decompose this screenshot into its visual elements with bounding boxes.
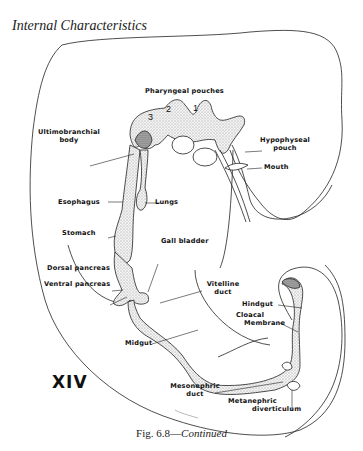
label-ventral-pancreas: Ventral pancreas [44,281,110,289]
label-line: duct [205,289,241,297]
label-mesonephric-duct: Mesonephric duct [170,383,220,398]
figure-caption: Fig. 6.8—Continued [0,427,363,439]
label-esophagus: Esophagus [58,199,100,207]
label-stomach: Stomach [62,230,96,238]
label-hypophyseal-pouch: Hypophyseal pouch [255,137,315,152]
label-line: pouch [255,145,315,153]
label-cloacal-membrane: Cloacal Membrane [236,312,285,327]
caption-suffix: Continued [181,427,227,439]
label-metanephric-diverticulum: Metanephric diverticulum [228,398,301,413]
label-midgut: Midgut [125,340,152,348]
label-vitelline-duct: Vitelline duct [205,281,241,296]
label-pouch-3: 3 [148,112,153,122]
label-line: duct [170,391,220,399]
label-pouch-1: 1 [193,103,198,113]
label-pharyngeal-pouches: Pharyngeal pouches [145,88,224,96]
stage-number: XIV [52,372,88,392]
label-gall-bladder: Gall bladder [161,238,209,246]
label-line: diverticulum [228,406,301,414]
label-mouth: Mouth [264,164,289,172]
label-lungs: Lungs [155,199,178,207]
label-pouch-2: 2 [166,104,171,114]
label-line: Membrane [236,320,285,328]
label-ultimobranchial-body: Ultimobranchial body [34,129,104,144]
label-dorsal-pancreas: Dorsal pancreas [47,265,110,273]
label-hindgut: Hindgut [242,301,273,309]
label-line: body [34,137,104,145]
caption-prefix: Fig. 6.8— [136,427,181,439]
